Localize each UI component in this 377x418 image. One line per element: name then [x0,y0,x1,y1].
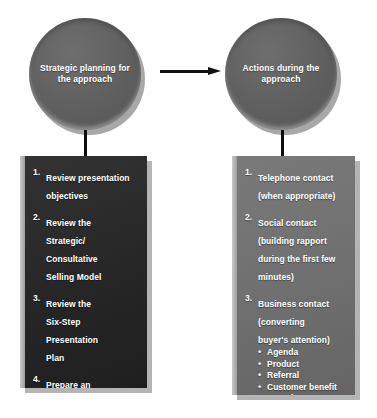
list-item: 1. Review presentation objectives [33,167,141,203]
right-step-list: 1. Telephone contact (when appropriate) … [245,167,349,395]
panel-content: 1. Review presentation objectives 2. Rev… [25,156,147,388]
connector-stem-right [281,130,284,156]
circle-label-right: Actions during the approach [235,63,327,86]
list-item: 3. Review the Six-Step Presentation Plan [33,293,141,365]
panel-strategic-planning-steps[interactable]: 1. Review presentation objectives 2. Rev… [20,156,147,388]
circle-body: Actions during the approach [225,18,337,130]
list-item: 2. Social contact (building rapport duri… [245,212,349,284]
list-item-text: Telephone contact (when appropriate) [258,173,335,201]
bullet-item: Agenda [258,347,349,359]
business-contact-bullets: Agenda Product Referral Customer benefit… [258,347,349,395]
bullet-item: Product [258,359,349,371]
circle-body: Strategic planning for the approach [29,18,141,130]
list-item-number: 2. [33,212,46,284]
list-item-body: Prepare an approach worksheet [46,374,141,388]
arrow-shaft [160,70,210,73]
list-item-body: Review presentation objectives [46,167,141,203]
list-item: 4. Prepare an approach worksheet [33,374,141,388]
diagram-canvas: Strategic planning for the approach Acti… [0,0,377,418]
list-item-text: Review presentation objectives [46,173,130,201]
circle-label-left: Strategic planning for the approach [39,63,131,86]
left-step-list: 1. Review presentation objectives 2. Rev… [33,167,141,388]
bullet-item: Customer benefit [258,382,349,394]
list-item-body: Review the Six-Step Presentation Plan [46,293,141,365]
list-item-number: 3. [33,293,46,365]
list-item-body: Review the Strategic/ Consultative Selli… [46,212,141,284]
list-item-number: 4. [33,374,46,388]
arrow-head-icon [208,67,221,75]
list-item-number: 1. [33,167,46,203]
list-item-text: Social contact (building rapport during … [258,218,336,282]
list-item-text: Review the Six-Step Presentation Plan [46,299,98,363]
panel-content: 1. Telephone contact (when appropriate) … [237,156,355,395]
list-item: 2. Review the Strategic/ Consultative Se… [33,212,141,284]
panel-approach-actions[interactable]: 1. Telephone contact (when appropriate) … [232,156,355,395]
list-item: 3. Business contact (converting buyer's … [245,293,349,395]
list-item: 1. Telephone contact (when appropriate) [245,167,349,203]
list-item-text: Prepare an approach worksheet [46,380,90,388]
list-item-number: 1. [245,167,258,203]
list-item-number: 3. [245,293,258,395]
arrow-left-to-right [160,67,222,76]
bullet-item: Referral [258,370,349,382]
list-item-text: Review the Strategic/ Consultative Selli… [46,218,101,282]
list-item-body: Business contact (converting buyer's att… [258,293,349,395]
list-item-number: 2. [245,212,258,284]
bullet-item: Question [258,393,349,395]
panel-body: 1. Telephone contact (when appropriate) … [232,156,355,395]
connector-stem-left [84,130,87,156]
list-item-body: Social contact (building rapport during … [258,212,349,284]
list-item-body: Telephone contact (when appropriate) [258,167,349,203]
panel-body: 1. Review presentation objectives 2. Rev… [20,156,147,388]
list-item-text: Business contact (converting buyer's att… [258,299,330,345]
